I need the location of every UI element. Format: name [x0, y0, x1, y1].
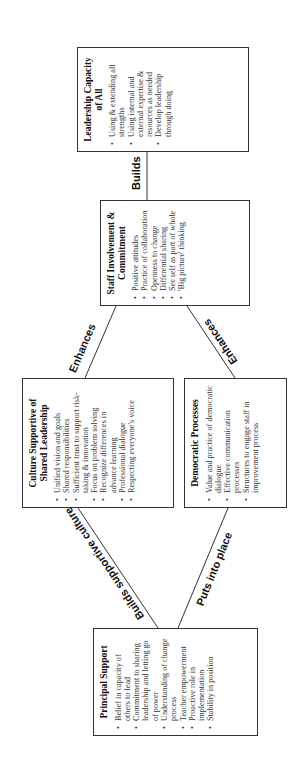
list-item: Belief in capacity of others to lead [114, 635, 133, 729]
list-item: Understanding of change process [160, 635, 179, 729]
line-principal-to-culture [78, 508, 158, 628]
list-item: Focus on problem solving [90, 385, 99, 501]
list-item: Recognize differences in advance learnin… [99, 385, 118, 501]
staff-involvement-title: Staff Involvement & Commitment [106, 207, 127, 299]
list-item: Using & extending all strengths [108, 54, 127, 145]
list-item: Shared responsibilities [62, 385, 71, 501]
list-item: Openness to change [150, 207, 159, 299]
list-item: 'Big picture' thinking [177, 207, 186, 299]
list-item: Unified vision and goals [53, 385, 62, 501]
culture-supportive-list: Unified vision and goals Shared responsi… [53, 385, 137, 501]
staff-involvement-list: Positive attitudes Practice of collabora… [131, 207, 187, 299]
list-item: Structures to engage staff in improvemen… [242, 385, 261, 501]
list-item: Effective communication processes [223, 385, 242, 501]
list-item: Professional dialogue [118, 385, 127, 501]
democratic-processes-title: Democratic Processes [190, 385, 201, 501]
list-item: Teacher empowerment [179, 635, 188, 729]
leadership-capacity-box: Leadership Capacity of All Using & exten… [77, 47, 249, 152]
list-item: Develop leadership through doing [154, 54, 173, 145]
list-item: Respecting everyone's voice [127, 385, 136, 501]
list-item: Commitment to sharing leadership and let… [132, 635, 160, 729]
list-item: Practice of collaboration [140, 207, 149, 299]
list-item: Using internal and external expertise & … [127, 54, 155, 145]
label-builds: Builds [130, 156, 142, 190]
principal-support-box: Principal Support Belief in capacity of … [93, 628, 258, 736]
list-item: Positive attitudes [131, 207, 140, 299]
staff-involvement-box: Staff Involvement & Commitment Positive … [100, 200, 250, 306]
list-item: See self as part of whole [168, 207, 177, 299]
list-item: Value and practice of democratic dialogu… [205, 385, 224, 501]
list-item: Stability in position [206, 635, 215, 729]
culture-supportive-title: Culture Supportive of Shared Leadership [28, 385, 49, 501]
principal-support-title: Principal Support [99, 635, 110, 729]
culture-supportive-box: Culture Supportive of Shared Leadership … [22, 378, 174, 508]
list-item: Sufficient trust to support risk-taking … [72, 385, 91, 501]
democratic-processes-list: Value and practice of democratic dialogu… [205, 385, 261, 501]
leadership-capacity-title: Leadership Capacity of All [83, 54, 104, 145]
list-item: Proactive role in implementation [188, 635, 207, 729]
leadership-capacity-list: Using & extending all strengths Using in… [108, 54, 173, 145]
leadership-diagram: Principal Support Belief in capacity of … [0, 0, 296, 770]
list-item: Differential sharing [159, 207, 168, 299]
principal-support-list: Belief in capacity of others to lead Com… [114, 635, 216, 729]
democratic-processes-box: Democratic Processes Value and practice … [184, 378, 287, 508]
